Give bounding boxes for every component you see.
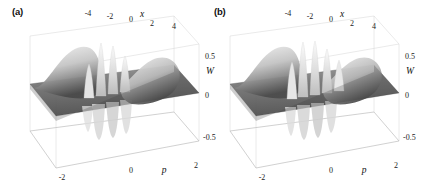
panel-b-x-tick--2: -2 (307, 12, 314, 21)
panel-b-p-axis-title: p (361, 165, 367, 175)
panel-b-w-axis-title: W (406, 66, 415, 76)
panel-b-p-tick-0: 0 (329, 166, 333, 175)
panel-b: (b) (219, 0, 438, 186)
panel-a-x-tick--4: -4 (85, 9, 92, 18)
wigner-function-figure: (a) (0, 0, 438, 186)
panel-a-x-tick-0: 0 (129, 15, 133, 24)
panel-b-w-tick-0.5: 0.5 (405, 52, 415, 61)
panel-a-x-tick-4: 4 (172, 22, 176, 31)
panel-a-p-axis-title: p (161, 165, 167, 175)
panel-a-p-tick--2: -2 (59, 173, 66, 182)
panel-b-plot: -4 -2 0 2 4 x -2 0 2 p 0.5 0 -0.5 W (219, 0, 438, 186)
panel-b-x-tick-2: 2 (350, 19, 354, 28)
panel-a-w-tick--0.5: -0.5 (203, 133, 216, 142)
panel-b-w-tick--0.5: -0.5 (403, 133, 416, 142)
panel-a-p-tick-0: 0 (129, 166, 133, 175)
panel-b-p-tick-2: 2 (394, 161, 398, 170)
panel-a-x-tick--2: -2 (107, 12, 114, 21)
panel-a-w-axis-title: W (206, 66, 215, 76)
panel-a-x-tick-2: 2 (150, 19, 154, 28)
panel-a-w-tick-0.5: 0.5 (205, 52, 215, 61)
panel-b-x-tick-0: 0 (329, 15, 333, 24)
panel-b-x-axis-title: x (339, 9, 345, 19)
panel-b-x-tick--4: -4 (285, 9, 292, 18)
panel-a-w-axis: 0.5 0 -0.5 W (203, 52, 216, 142)
panel-b-surface (230, 41, 399, 140)
panel-b-w-tick-0: 0 (405, 91, 409, 100)
panel-a-x-axis: -4 -2 0 2 4 x (85, 9, 176, 31)
panel-a-x-axis-title: x (139, 9, 145, 19)
panel-a-plot: -4 -2 0 2 4 x -2 0 2 p 0.5 0 -0.5 W (0, 0, 219, 186)
panel-b-x-tick-4: 4 (372, 22, 376, 31)
panel-a-p-tick-2: 2 (194, 161, 198, 170)
panel-a-w-tick-0: 0 (205, 91, 209, 100)
panel-b-p-tick--2: -2 (259, 173, 266, 182)
panel-b-w-axis: 0.5 0 -0.5 W (403, 52, 416, 142)
panel-b-p-axis: -2 0 2 p (259, 161, 398, 182)
panel-b-x-axis: -4 -2 0 2 4 x (285, 9, 376, 31)
panel-a: (a) (0, 0, 219, 186)
panel-a-surface (30, 43, 199, 140)
panel-a-p-axis: -2 0 2 p (59, 161, 198, 182)
